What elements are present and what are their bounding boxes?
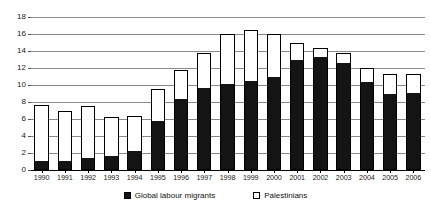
bar-group[interactable] bbox=[58, 17, 72, 170]
bar-group[interactable] bbox=[127, 17, 141, 170]
stacked-bar-chart: 024681012141618 199019911992199319941995… bbox=[0, 0, 431, 208]
bar-stack[interactable] bbox=[383, 74, 397, 170]
bar-group[interactable] bbox=[220, 17, 234, 170]
chart-legend: Global labour migrantsPalestinians bbox=[0, 188, 431, 202]
bar-stack[interactable] bbox=[406, 74, 420, 170]
bar-group[interactable] bbox=[336, 17, 350, 170]
bar-segment-palestinians[interactable] bbox=[175, 71, 187, 102]
legend-item[interactable]: Palestinians bbox=[253, 191, 307, 200]
bar-stack[interactable] bbox=[267, 34, 281, 170]
bar-segment-palestinians[interactable] bbox=[82, 107, 94, 160]
bar-stack[interactable] bbox=[290, 43, 304, 171]
bar-stack[interactable] bbox=[151, 89, 165, 170]
bar-group[interactable] bbox=[104, 17, 118, 170]
bar-segment-palestinians[interactable] bbox=[59, 112, 71, 163]
x-tick-mark bbox=[88, 171, 89, 173]
bar-group[interactable] bbox=[244, 17, 258, 170]
bar-segment-global-labour-migrants[interactable] bbox=[337, 63, 349, 169]
y-tick-label: 16 bbox=[4, 30, 26, 38]
y-tick-mark bbox=[28, 85, 31, 86]
bar-group[interactable] bbox=[34, 17, 48, 170]
bar-segment-global-labour-migrants[interactable] bbox=[314, 57, 326, 169]
legend-swatch-icon bbox=[253, 192, 260, 199]
x-tick-label: 2002 bbox=[309, 173, 332, 182]
y-tick-mark bbox=[28, 136, 31, 137]
bar-segment-palestinians[interactable] bbox=[384, 75, 396, 96]
bar-group[interactable] bbox=[313, 17, 327, 170]
x-tick-mark bbox=[274, 171, 275, 173]
y-tick-label: 8 bbox=[4, 98, 26, 106]
bar-group[interactable] bbox=[151, 17, 165, 170]
bar-segment-global-labour-migrants[interactable] bbox=[59, 161, 71, 170]
bar-stack[interactable] bbox=[174, 70, 188, 170]
bar-segment-global-labour-migrants[interactable] bbox=[221, 84, 233, 169]
bar-stack[interactable] bbox=[34, 105, 48, 170]
bar-segment-global-labour-migrants[interactable] bbox=[128, 151, 140, 169]
x-tick-label: 1994 bbox=[123, 173, 146, 182]
bar-segment-global-labour-migrants[interactable] bbox=[152, 121, 164, 169]
x-tick-mark bbox=[367, 171, 368, 173]
legend-label: Global labour migrants bbox=[135, 191, 215, 200]
x-tick-label: 1993 bbox=[100, 173, 123, 182]
bar-stack[interactable] bbox=[313, 48, 327, 170]
bar-segment-palestinians[interactable] bbox=[245, 31, 257, 84]
x-tick-mark bbox=[111, 171, 112, 173]
y-tick-label: 0 bbox=[4, 166, 26, 174]
bar-segment-global-labour-migrants[interactable] bbox=[175, 99, 187, 169]
x-tick-label: 1996 bbox=[169, 173, 192, 182]
bar-segment-palestinians[interactable] bbox=[198, 54, 210, 91]
y-tick-label: 4 bbox=[4, 132, 26, 140]
y-tick-mark bbox=[28, 119, 31, 120]
bar-segment-global-labour-migrants[interactable] bbox=[268, 77, 280, 169]
bar-stack[interactable] bbox=[104, 117, 118, 170]
legend-item[interactable]: Global labour migrants bbox=[124, 191, 215, 200]
y-tick-mark bbox=[28, 68, 31, 69]
bar-segment-palestinians[interactable] bbox=[128, 117, 140, 153]
bar-segment-global-labour-migrants[interactable] bbox=[245, 81, 257, 169]
bar-segment-palestinians[interactable] bbox=[105, 118, 117, 158]
x-tick-label: 1991 bbox=[53, 173, 76, 182]
bar-stack[interactable] bbox=[244, 30, 258, 170]
bar-stack[interactable] bbox=[360, 68, 374, 170]
bar-segment-palestinians[interactable] bbox=[268, 35, 280, 79]
bar-segment-global-labour-migrants[interactable] bbox=[291, 60, 303, 169]
bar-segment-palestinians[interactable] bbox=[152, 90, 164, 122]
x-tick-label: 2006 bbox=[402, 173, 425, 182]
x-tick-mark bbox=[297, 171, 298, 173]
bar-group[interactable] bbox=[197, 17, 211, 170]
bar-segment-global-labour-migrants[interactable] bbox=[105, 156, 117, 169]
y-tick-mark bbox=[28, 51, 31, 52]
x-tick-label: 2000 bbox=[262, 173, 285, 182]
bar-stack[interactable] bbox=[58, 111, 72, 171]
bar-segment-global-labour-migrants[interactable] bbox=[384, 94, 396, 169]
bar-segment-palestinians[interactable] bbox=[221, 35, 233, 86]
bar-group[interactable] bbox=[81, 17, 95, 170]
bar-segment-global-labour-migrants[interactable] bbox=[82, 158, 94, 169]
bar-stack[interactable] bbox=[197, 53, 211, 170]
bar-group[interactable] bbox=[383, 17, 397, 170]
x-tick-mark bbox=[181, 171, 182, 173]
bar-stack[interactable] bbox=[81, 106, 95, 170]
bar-group[interactable] bbox=[290, 17, 304, 170]
bar-segment-global-labour-migrants[interactable] bbox=[361, 82, 373, 169]
y-tick-mark bbox=[28, 102, 31, 103]
bar-stack[interactable] bbox=[127, 116, 141, 170]
bar-group[interactable] bbox=[267, 17, 281, 170]
x-tick-mark bbox=[158, 171, 159, 173]
x-tick-mark bbox=[390, 171, 391, 173]
bar-stack[interactable] bbox=[336, 53, 350, 170]
bar-group[interactable] bbox=[174, 17, 188, 170]
x-tick-mark bbox=[344, 171, 345, 173]
x-tick-mark bbox=[251, 171, 252, 173]
bar-segment-palestinians[interactable] bbox=[35, 106, 47, 163]
y-tick-label: 18 bbox=[4, 13, 26, 21]
bar-group[interactable] bbox=[406, 17, 420, 170]
plot-area bbox=[30, 17, 425, 170]
bar-stack[interactable] bbox=[220, 34, 234, 170]
bar-group[interactable] bbox=[360, 17, 374, 170]
x-tick-label: 2004 bbox=[355, 173, 378, 182]
bar-segment-global-labour-migrants[interactable] bbox=[35, 161, 47, 170]
bar-segment-global-labour-migrants[interactable] bbox=[198, 88, 210, 169]
x-tick-label: 1998 bbox=[216, 173, 239, 182]
bar-segment-global-labour-migrants[interactable] bbox=[407, 93, 419, 170]
